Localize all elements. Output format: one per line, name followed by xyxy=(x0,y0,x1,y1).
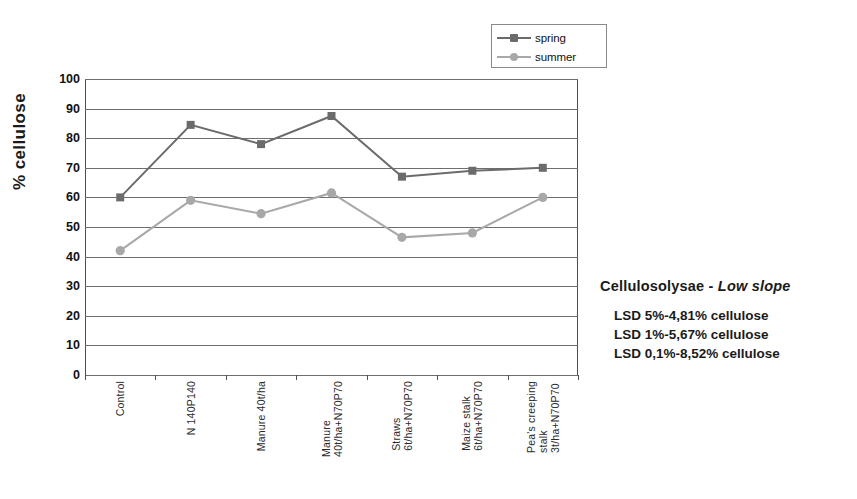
square-marker-icon xyxy=(510,34,518,42)
x-tick xyxy=(226,375,227,380)
x-tick xyxy=(296,375,297,380)
x-axis-label-text: Manure40t/ha+N70P70 xyxy=(320,381,344,457)
x-axis-label-text: N 140P140 xyxy=(185,381,197,435)
plot-area xyxy=(85,79,578,375)
legend-item-summer[interactable]: summer xyxy=(497,47,601,66)
legend-label-summer: summer xyxy=(535,51,576,63)
x-tick xyxy=(437,375,438,380)
legend-item-spring[interactable]: spring xyxy=(497,28,601,47)
x-axis-label-text: Straws6t/ha+N70P70 xyxy=(390,381,414,451)
data-point-summer xyxy=(186,196,195,205)
series-plot xyxy=(85,79,578,375)
annotation-title-main: Cellulosolysae - xyxy=(600,278,718,294)
diamond-marker-icon xyxy=(510,53,518,61)
legend-swatch-summer xyxy=(497,51,531,63)
data-point-summer xyxy=(397,233,406,242)
annotation-line: LSD 5%-4,81% cellulose xyxy=(614,306,850,325)
annotation-title-emphasis: Low slope xyxy=(718,278,791,294)
x-axis-label: Straws6t/ha+N70P70 xyxy=(367,381,437,496)
data-point-spring xyxy=(328,112,336,120)
data-point-spring xyxy=(187,121,195,129)
annotation-line: LSD 1%-5,67% cellulose xyxy=(614,325,850,344)
chart-figure: spring summer % cellulose 10090807060504… xyxy=(0,0,857,499)
data-point-spring xyxy=(468,167,476,175)
x-tick xyxy=(508,375,509,380)
x-axis-label-text: Control xyxy=(114,381,126,416)
data-point-summer xyxy=(116,246,125,255)
y-tick-label: 20 xyxy=(44,310,80,322)
y-tick-label: 80 xyxy=(44,132,80,144)
x-axis-label: Control xyxy=(85,381,155,496)
y-tick-label: 60 xyxy=(44,191,80,203)
y-axis-title: % cellulose xyxy=(10,0,30,190)
x-axis-label: Manure40t/ha+N70P70 xyxy=(297,381,367,496)
data-point-spring xyxy=(257,140,265,148)
y-tick-label: 50 xyxy=(44,221,80,233)
series-line-spring xyxy=(120,116,543,197)
x-tick xyxy=(85,375,86,380)
data-point-summer xyxy=(468,228,477,237)
chart-legend: spring summer xyxy=(491,24,607,68)
y-tick-label: 30 xyxy=(44,280,80,292)
annotation-block: Cellulosolysae - Low slope LSD 5%-4,81% … xyxy=(600,278,850,363)
data-point-spring xyxy=(539,164,547,172)
data-point-summer xyxy=(327,188,336,197)
gridline xyxy=(85,375,578,376)
series-line-summer xyxy=(120,193,543,251)
data-point-summer xyxy=(256,209,265,218)
x-tick xyxy=(367,375,368,380)
x-axis-label-text: Manure 40t/ha xyxy=(255,381,267,451)
data-point-summer xyxy=(538,193,547,202)
y-tick-label: 40 xyxy=(44,251,80,263)
y-tick-label: 70 xyxy=(44,162,80,174)
annotation-lines: LSD 5%-4,81% celluloseLSD 1%-5,67% cellu… xyxy=(600,306,850,363)
x-axis-label-text: Pea's creepingstalk3t/ha+N70P70 xyxy=(525,381,561,453)
data-point-spring xyxy=(116,193,124,201)
data-point-spring xyxy=(398,173,406,181)
y-tick-label: 10 xyxy=(44,339,80,351)
annotation-title: Cellulosolysae - Low slope xyxy=(600,278,850,294)
x-tick xyxy=(155,375,156,380)
y-tick-label: 90 xyxy=(44,103,80,115)
legend-swatch-spring xyxy=(497,32,531,44)
x-axis-label: Pea's creepingstalk3t/ha+N70P70 xyxy=(508,381,578,496)
x-axis-label-text: Maize stalk6t/ha+N70P70 xyxy=(460,381,484,451)
y-tick-label: 100 xyxy=(44,73,80,85)
x-tick xyxy=(578,375,579,380)
x-axis-label: Manure 40t/ha xyxy=(226,381,296,496)
legend-label-spring: spring xyxy=(535,32,566,44)
y-tick-label: 0 xyxy=(44,369,80,381)
x-axis-label: Maize stalk6t/ha+N70P70 xyxy=(437,381,507,496)
x-axis-labels: ControlN 140P140Manure 40t/haManure40t/h… xyxy=(85,381,578,496)
y-axis-tick-labels: 1009080706050403020100 xyxy=(38,79,80,375)
annotation-line: LSD 0,1%-8,52% cellulose xyxy=(614,344,850,363)
x-axis-label: N 140P140 xyxy=(156,381,226,496)
